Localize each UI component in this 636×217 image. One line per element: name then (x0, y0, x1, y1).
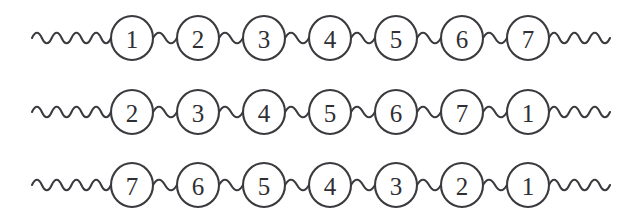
node-label: 3 (390, 173, 403, 200)
node-label: 1 (126, 26, 139, 53)
row-1: 1234567 (32, 16, 610, 60)
node-label: 1 (522, 173, 535, 200)
braid-node[interactable]: 2 (111, 90, 153, 134)
node-label: 6 (456, 26, 469, 53)
braid-node[interactable]: 6 (177, 163, 219, 207)
strand-segment-lead (32, 180, 111, 191)
strand-segment-connector (483, 33, 507, 44)
braid-rows-group: 123456723456717654321 (32, 16, 610, 207)
braid-node[interactable]: 6 (441, 16, 483, 60)
node-label: 5 (258, 173, 271, 200)
braid-node[interactable]: 4 (309, 163, 351, 207)
strand-segment-connector (483, 180, 507, 191)
node-label: 6 (390, 100, 403, 127)
strand-segment-tail (549, 107, 610, 118)
braid-node[interactable]: 6 (375, 90, 417, 134)
node-label: 2 (192, 26, 205, 53)
strand-segment-connector (285, 180, 309, 191)
braid-node[interactable]: 4 (243, 90, 285, 134)
braid-node[interactable]: 5 (243, 163, 285, 207)
strand-segment-connector (417, 107, 441, 118)
node-label: 5 (324, 100, 337, 127)
node-label: 7 (126, 173, 139, 200)
strand-segment-connector (219, 33, 243, 44)
node-label: 3 (258, 26, 271, 53)
braid-node[interactable]: 3 (375, 163, 417, 207)
node-label: 7 (522, 26, 535, 53)
braid-node[interactable]: 1 (111, 16, 153, 60)
node-label: 3 (192, 100, 205, 127)
braid-node[interactable]: 5 (375, 16, 417, 60)
braid-diagram-root: 123456723456717654321 (0, 0, 636, 217)
node-label: 4 (324, 173, 337, 200)
strand-segment-connector (153, 107, 177, 118)
strand-segment-connector (351, 180, 375, 191)
node-label: 2 (456, 173, 469, 200)
strand-segment-connector (153, 33, 177, 44)
node-label: 2 (126, 100, 139, 127)
strand-segment-connector (285, 33, 309, 44)
node-label: 7 (456, 100, 469, 127)
braid-node[interactable]: 3 (177, 90, 219, 134)
braid-node[interactable]: 2 (177, 16, 219, 60)
braid-node[interactable]: 2 (441, 163, 483, 207)
strand-segment-lead (32, 33, 111, 44)
braid-node[interactable]: 7 (111, 163, 153, 207)
node-label: 5 (390, 26, 403, 53)
node-label: 4 (324, 26, 337, 53)
node-label: 1 (522, 100, 535, 127)
braid-diagram-canvas: 123456723456717654321 (0, 0, 636, 217)
braid-node[interactable]: 3 (243, 16, 285, 60)
braid-node[interactable]: 1 (507, 163, 549, 207)
braid-node[interactable]: 1 (507, 90, 549, 134)
braid-node[interactable]: 7 (507, 16, 549, 60)
strand-segment-connector (219, 180, 243, 191)
strand-segment-connector (351, 33, 375, 44)
strand-segment-lead (32, 107, 111, 118)
strand-segment-connector (219, 107, 243, 118)
braid-node[interactable]: 4 (309, 16, 351, 60)
strand-segment-connector (417, 33, 441, 44)
strand-segment-connector (351, 107, 375, 118)
strand-segment-connector (153, 180, 177, 191)
strand-segment-connector (285, 107, 309, 118)
node-label: 4 (258, 100, 271, 127)
strand-segment-connector (417, 180, 441, 191)
braid-node[interactable]: 5 (309, 90, 351, 134)
node-label: 6 (192, 173, 205, 200)
row-3: 7654321 (32, 163, 610, 207)
braid-node[interactable]: 7 (441, 90, 483, 134)
strand-segment-tail (549, 180, 610, 191)
strand-segment-connector (483, 107, 507, 118)
strand-segment-tail (549, 33, 610, 44)
row-2: 2345671 (32, 90, 610, 134)
